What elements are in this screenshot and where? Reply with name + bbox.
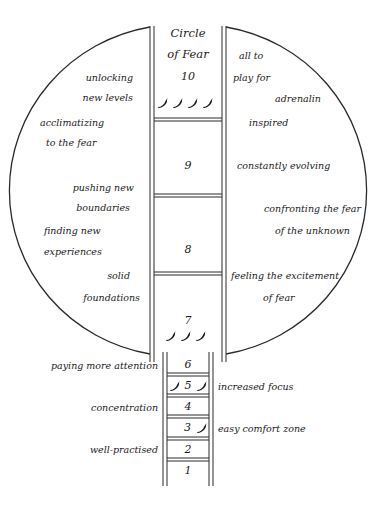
diagram-title-line2: of Fear [154,48,222,60]
rung-level-1: 1 [167,465,209,477]
left-label-unlocking: unlocking [86,72,133,84]
left-label-acclimatizing: acclimatizing [40,117,104,129]
right-label-of-the-unknown: of the unknown [275,225,350,237]
rung-level-9: 9 [154,160,222,172]
right-label-of-fear: of fear [263,292,295,304]
left-label-finding-new: finding new [44,225,101,237]
rung-level-8: 8 [154,244,222,256]
right-label-increased-focus: increased focus [218,381,293,393]
rung-level-3: 3 [184,422,191,434]
left-label-paying-more-attention: paying more attention [51,360,158,372]
right-label-feeling-the-excitement: feeling the excitement [231,270,339,282]
rung-level-10: 10 [154,71,222,83]
right-label-all-to: all to [239,50,263,62]
chili-pepper-icon-group-7 [166,331,206,341]
rung-level-2: 2 [167,444,209,456]
left-label-concentration: concentration [91,402,158,414]
rung-level-6: 6 [167,359,209,371]
right-label-inspired: inspired [249,117,288,129]
rung-level-5: 5 [167,380,209,392]
left-label-to-the-fear: to the fear [46,137,96,149]
left-label-experiences: experiences [44,246,102,258]
right-label-play-for: play for [233,72,270,84]
left-label-solid: solid [107,270,130,282]
left-label-well-practised: well-practised [90,444,158,456]
chili-pepper-icon-group-10 [158,98,213,108]
rung-level-7: 7 [154,315,222,327]
circle-of-fear-diagram: Circle of Fear 10 9 8 7 6 5 4 3 2 1 unlo… [0,0,370,508]
rung-level-4: 4 [167,401,209,413]
left-label-pushing-new: pushing new [73,182,134,194]
right-label-adrenalin: adrenalin [275,93,321,105]
right-label-confronting-the-fear: confronting the fear [264,203,361,215]
left-label-new-levels: new levels [83,92,133,104]
left-label-boundaries: boundaries [76,202,130,214]
right-label-constantly-evolving: constantly evolving [237,160,330,172]
chili-pepper-icon-group-3 [197,423,207,433]
left-label-foundations: foundations [83,292,140,304]
right-label-easy-comfort-zone: easy comfort zone [218,423,306,435]
diagram-title-line1: Circle [154,27,222,39]
